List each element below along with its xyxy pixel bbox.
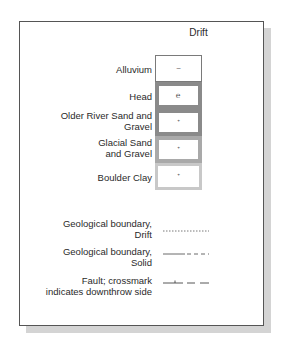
unit-label-alluvium: Alluvium (116, 64, 152, 75)
unit-label-older-river-sand: Older River Sand and Gravel (57, 110, 152, 132)
legend-heading: Drift (175, 27, 222, 38)
swatch-head: ℮ (155, 82, 202, 109)
older-river-symbol-icon: ᐩ (177, 118, 180, 127)
boundary-drift-line-icon (163, 226, 209, 236)
swatch-older-river-sand: ᐩ (155, 109, 202, 136)
line-label-drift-2: Drift (135, 229, 152, 240)
fault-line-icon (163, 278, 209, 288)
line-label-drift-1: Geological boundary, (63, 218, 152, 229)
alluvium-symbol-icon: ~ (176, 64, 181, 73)
line-label-drift: Geological boundary,Drift (63, 218, 152, 240)
head-symbol-icon: ℮ (176, 91, 181, 100)
swatch-boulder-clay: ᐩ (155, 163, 202, 190)
swatch-alluvium: ~ (155, 55, 202, 82)
line-label-fault-1: Fault; crossmark (82, 275, 152, 286)
boulder-clay-symbol-icon: ᐩ (177, 172, 180, 181)
line-label-solid-2: Solid (131, 257, 152, 268)
unit-label-head: Head (129, 91, 152, 102)
line-label-solid-1: Geological boundary, (63, 246, 152, 257)
glacial-symbol-icon: ᐩ (177, 145, 180, 154)
boundary-solid-line-icon (163, 249, 209, 259)
line-label-fault: Fault; crossmarkindicates downthrow side (46, 275, 152, 297)
unit-label-boulder-clay: Boulder Clay (98, 172, 152, 183)
line-label-solid: Geological boundary,Solid (63, 246, 152, 268)
line-label-fault-2: indicates downthrow side (46, 286, 152, 297)
unit-label-glacial-sand: Glacial Sand and Gravel (82, 137, 152, 159)
swatch-glacial-sand: ᐩ (155, 136, 202, 163)
legend-panel: Drift Alluvium ~ Head ℮ Older River Sand… (19, 21, 264, 326)
